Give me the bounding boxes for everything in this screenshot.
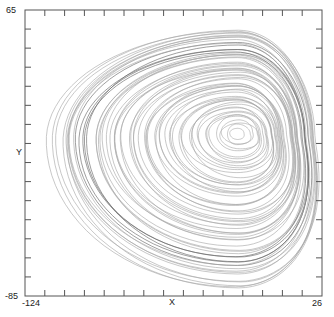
- y-max-label: 65: [6, 5, 16, 15]
- y-min-label: -85: [5, 291, 18, 301]
- x-max-label: 26: [312, 298, 322, 308]
- y-axis-label: Y: [16, 147, 22, 157]
- trajectory-curves: [46, 30, 319, 288]
- phase-plot: [0, 0, 334, 317]
- x-axis-label: X: [169, 297, 175, 307]
- x-min-label: -124: [22, 298, 40, 308]
